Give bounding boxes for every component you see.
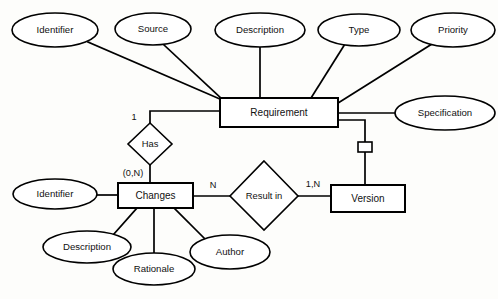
entity-label: Requirement bbox=[250, 107, 307, 118]
relationship-has[interactable]: Has bbox=[128, 123, 172, 165]
attribute-rationale[interactable]: Rationale bbox=[113, 253, 195, 285]
attribute-identifier-changes[interactable]: Identifier bbox=[13, 179, 97, 209]
connector-rect bbox=[358, 142, 372, 152]
attribute-specification[interactable]: Specification bbox=[395, 96, 495, 130]
attribute-label: Type bbox=[349, 24, 370, 35]
attribute-label: Rationale bbox=[134, 263, 175, 274]
er-diagram-svg: Identifier Source Description Type Prior… bbox=[0, 0, 498, 299]
attribute-label: Identifier bbox=[37, 24, 75, 35]
attribute-identifier-requirement[interactable]: Identifier bbox=[12, 13, 98, 47]
cardinality-has-changes: (0,N) bbox=[123, 168, 143, 178]
attribute-description-requirement[interactable]: Description bbox=[215, 13, 305, 47]
cardinality-has-requirement: 1 bbox=[131, 112, 136, 122]
attribute-label: Identifier bbox=[37, 188, 75, 199]
edge-type-requirement bbox=[311, 44, 345, 98]
attribute-label: Description bbox=[63, 241, 111, 252]
edge-requirement-version-upper bbox=[338, 120, 365, 142]
cardinality-changes-resultin: N bbox=[210, 180, 217, 190]
edge-identifier-requirement bbox=[88, 42, 222, 100]
attribute-label: Priority bbox=[438, 24, 468, 35]
edge-source-requirement bbox=[163, 44, 222, 99]
edge-priority-requirement bbox=[338, 44, 432, 103]
entity-version[interactable]: Version bbox=[331, 185, 405, 212]
er-diagram-canvas: Identifier Source Description Type Prior… bbox=[0, 0, 498, 299]
relationship-label: Result in bbox=[246, 190, 282, 201]
attribute-priority[interactable]: Priority bbox=[411, 13, 495, 47]
entity-label: Version bbox=[351, 193, 384, 204]
attribute-label: Source bbox=[138, 23, 168, 34]
attribute-label: Description bbox=[236, 24, 284, 35]
entity-requirement[interactable]: Requirement bbox=[220, 98, 338, 127]
attribute-author[interactable]: Author bbox=[190, 235, 270, 269]
relationship-result-in[interactable]: Result in bbox=[230, 161, 298, 230]
attribute-label: Specification bbox=[418, 107, 472, 118]
attribute-source[interactable]: Source bbox=[115, 13, 191, 45]
attribute-type[interactable]: Type bbox=[318, 14, 400, 46]
entity-label: Changes bbox=[135, 190, 175, 201]
attribute-description-changes[interactable]: Description bbox=[43, 231, 131, 263]
edge-description-changes bbox=[113, 208, 137, 235]
attribute-label: Author bbox=[216, 246, 245, 257]
requirement-version-connector bbox=[358, 142, 372, 152]
cardinality-resultin-version: 1,N bbox=[306, 179, 320, 189]
edge-has-requirement bbox=[150, 111, 220, 123]
relationship-label: Has bbox=[142, 138, 159, 149]
edge-author-changes bbox=[174, 208, 205, 239]
entity-changes[interactable]: Changes bbox=[118, 183, 193, 208]
attribute-nodes: Identifier Source Description Type Prior… bbox=[12, 13, 495, 285]
